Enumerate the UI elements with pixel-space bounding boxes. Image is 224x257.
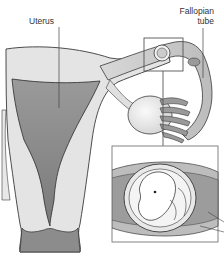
fallopian-tube-label-line2: tube [170,16,214,26]
embryo-small-inner [157,48,167,58]
cervix [20,228,80,252]
tube-bulge [188,58,200,66]
fallopian-tube-label-line1: Fallopian [170,6,214,16]
ovarian-ligament [106,80,134,110]
uterus-label: Uterus [29,16,54,26]
anatomy-illustration [0,0,224,257]
fallopian-tube-label: Fallopian tube [170,6,214,26]
inset-panel [112,146,218,242]
